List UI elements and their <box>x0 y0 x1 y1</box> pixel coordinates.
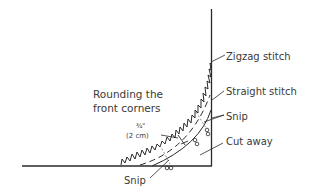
sewing-diagram: Rounding the front corners ¾" (2 cm) Zig… <box>0 0 326 196</box>
label-zigzag-stitch: Zigzag stitch <box>226 51 291 62</box>
measurement-metric: (2 cm) <box>126 132 149 140</box>
label-cut-away: Cut away <box>226 136 273 147</box>
snip-upper-leader-2 <box>212 115 224 118</box>
straight-leader <box>212 91 224 100</box>
title-line-1: Rounding the <box>93 88 163 100</box>
label-straight-stitch: Straight stitch <box>226 86 297 97</box>
scissors-icon <box>193 138 199 146</box>
label-snip-lower: Snip <box>124 175 146 186</box>
title-line-2: front corners <box>93 102 161 114</box>
measurement-fraction: ¾" <box>136 122 145 130</box>
cut-line <box>152 110 211 166</box>
zigzag-leader <box>211 55 225 62</box>
scissors-icon <box>205 128 210 136</box>
zigzag-stitch-line <box>121 63 211 165</box>
label-snip-upper: Snip <box>226 111 248 122</box>
scissors-icon <box>165 166 173 170</box>
